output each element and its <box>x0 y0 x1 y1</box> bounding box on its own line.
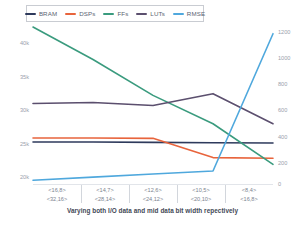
x-category-bottom: <16,8> <box>240 195 257 204</box>
legend-swatch-dsps <box>65 13 76 15</box>
x-category-2: <12,6> <24,12> <box>129 184 177 206</box>
series-line-dsps <box>33 138 273 158</box>
x-category-top: <16,8> <box>48 186 65 195</box>
legend-item-luts[interactable]: LUTs <box>136 10 165 17</box>
left-value-axis: 40k 35k 30k 25k 20k <box>0 25 31 184</box>
legend-label-rmse: RMSE <box>187 10 205 17</box>
plot-area <box>33 25 273 184</box>
right-axis-tick: 200 <box>278 161 287 167</box>
x-category-top: <10,5> <box>192 186 209 195</box>
series-line-luts <box>33 94 273 124</box>
x-category-3: <10,5> <20,10> <box>177 184 225 206</box>
x-category-bottom: <28,14> <box>95 195 116 204</box>
right-axis-tick: 1000 <box>278 56 290 62</box>
x-category-4: <8,4> <16,8> <box>225 184 273 206</box>
x-category-axis: <16,8> <32,16> <14,7> <28,14> <12,6> <24… <box>33 184 273 206</box>
legend-label-ffs: FFs <box>117 10 128 17</box>
x-category-bottom: <24,12> <box>143 195 164 204</box>
legend-swatch-ffs <box>103 13 114 15</box>
chart-legend: BRAM DSPs FFs LUTs RMSE <box>26 5 204 22</box>
series-lines <box>33 25 273 184</box>
right-axis-tick: 600 <box>278 108 287 114</box>
x-category-0: <16,8> <32,16> <box>33 184 81 206</box>
right-axis-tick: 400 <box>278 135 287 141</box>
left-axis-tick: 20k <box>20 175 29 181</box>
legend-swatch-rmse <box>173 13 184 15</box>
series-line-bram <box>33 142 273 143</box>
x-category-bottom: <20,10> <box>191 195 212 204</box>
legend-item-dsps[interactable]: DSPs <box>65 10 95 17</box>
right-axis-tick: 1200 <box>278 30 290 36</box>
x-category-1: <14,7> <28,14> <box>81 184 129 206</box>
x-category-bottom: <32,16> <box>47 195 68 204</box>
right-axis-tick: 0 <box>278 182 281 188</box>
right-axis-tick: 800 <box>278 82 287 88</box>
legend-swatch-bram <box>25 13 36 15</box>
legend-item-rmse[interactable]: RMSE <box>173 10 205 17</box>
legend-item-bram[interactable]: BRAM <box>25 10 57 17</box>
line-chart: BRAM DSPs FFs LUTs RMSE 40k 35k 30k 25k … <box>0 0 305 230</box>
legend-label-dsps: DSPs <box>79 10 95 17</box>
legend-swatch-luts <box>136 13 147 15</box>
x-category-top: <12,6> <box>144 186 161 195</box>
series-line-ffs <box>33 27 273 164</box>
x-category-top: <14,7> <box>96 186 113 195</box>
chart-caption: Varying both I/O data and mid data bit w… <box>0 207 305 214</box>
left-axis-tick: 25k <box>20 142 29 148</box>
x-category-top: <8,4> <box>242 186 256 195</box>
legend-label-bram: BRAM <box>39 10 57 17</box>
left-axis-tick: 40k <box>20 41 29 47</box>
right-value-axis: 1200 1000 800 600 400 200 0 <box>275 25 305 184</box>
legend-item-ffs[interactable]: FFs <box>103 10 128 17</box>
left-axis-tick: 30k <box>20 108 29 114</box>
left-axis-tick: 35k <box>20 75 29 81</box>
legend-label-luts: LUTs <box>150 10 165 17</box>
